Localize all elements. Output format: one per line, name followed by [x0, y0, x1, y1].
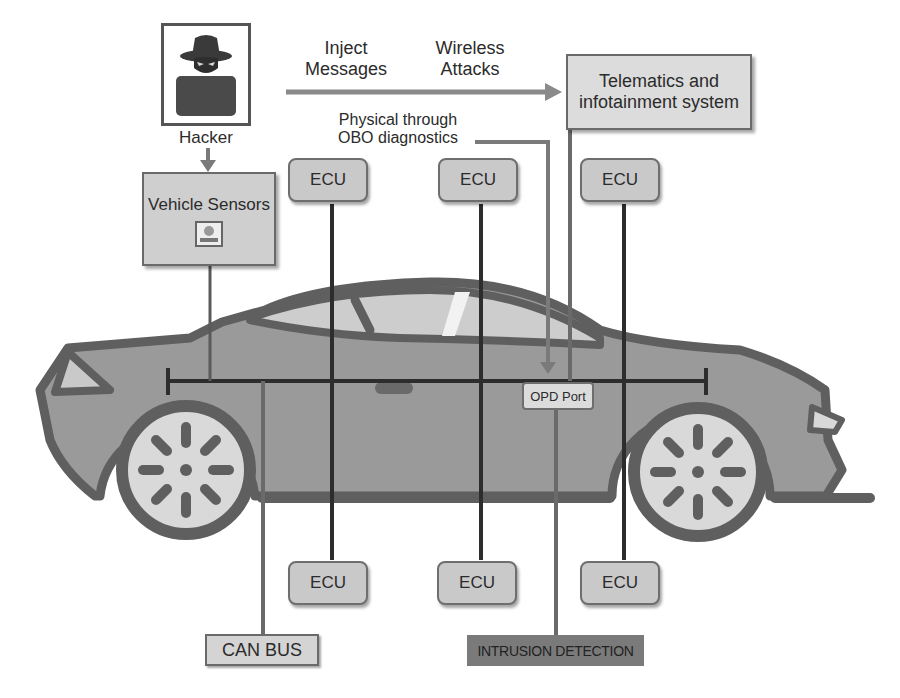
- ecu-top-2: ECU: [438, 158, 518, 202]
- inject-messages-label: Inject Messages: [296, 38, 396, 79]
- hacker-box: [161, 23, 251, 126]
- hacker-label: Hacker: [160, 128, 252, 148]
- rear-wheel: [122, 406, 250, 534]
- telematics-infotainment-box: Telematics and infotainment system: [566, 54, 752, 130]
- physical-obd-label: Physical through OBO diagnostics: [318, 111, 478, 148]
- ecu-top-3: ECU: [580, 158, 660, 202]
- ecu-bottom-1: ECU: [288, 561, 368, 605]
- car-illustration: [40, 282, 870, 536]
- wireless-attacks-label: Wireless Attacks: [420, 38, 520, 79]
- can-bus-label: CAN BUS: [205, 634, 319, 666]
- front-wheel: [634, 408, 762, 536]
- hacker-icon: [164, 26, 248, 123]
- vehicle-sensors-box: Vehicle Sensors: [142, 172, 276, 266]
- sensor-icon: [195, 221, 223, 247]
- ecu-bottom-2: ECU: [437, 561, 517, 605]
- intrusion-detection-label: INTRUSION DETECTION: [467, 635, 644, 666]
- ecu-top-1: ECU: [288, 158, 368, 202]
- ecu-bottom-3: ECU: [580, 561, 660, 605]
- opd-port-box: OPD Port: [522, 382, 594, 410]
